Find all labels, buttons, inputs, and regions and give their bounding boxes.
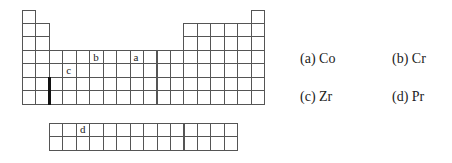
- f-block-cell: [157, 123, 171, 137]
- table-cell: [103, 77, 117, 91]
- f-block-cell: [49, 136, 63, 150]
- table-cell: [224, 90, 238, 104]
- table-cell: [76, 90, 90, 104]
- f-block-cell: [62, 123, 76, 137]
- table-cell: [130, 77, 144, 91]
- table-cell: [170, 77, 184, 91]
- table-cell: [157, 63, 171, 77]
- table-cell: [76, 63, 90, 77]
- f-block-cell: [62, 136, 76, 150]
- table-cell: [49, 90, 63, 104]
- f-block-cell: [184, 123, 198, 137]
- table-cell: [224, 77, 238, 91]
- table-cell: [62, 50, 76, 64]
- table-cell: [251, 23, 265, 37]
- cell-marker-a: a: [134, 52, 139, 63]
- cell-marker-c: c: [66, 65, 71, 76]
- table-cell: [197, 23, 211, 37]
- table-cell: [22, 23, 36, 37]
- table-cell: [49, 63, 63, 77]
- table-cell: [237, 23, 251, 37]
- table-cell: [89, 90, 103, 104]
- f-block-cell: [116, 136, 130, 150]
- table-cell: [197, 63, 211, 77]
- table-cell: [116, 90, 130, 104]
- f-block-cell: [130, 136, 144, 150]
- f-block-cell: [103, 136, 117, 150]
- table-cell: [62, 77, 76, 91]
- table-cell: [35, 23, 49, 37]
- table-cell: [170, 90, 184, 104]
- table-cell: [22, 90, 36, 104]
- table-cell: [49, 77, 63, 91]
- f-block-cell: [130, 123, 144, 137]
- table-cell: [170, 63, 184, 77]
- table-cell: [210, 90, 224, 104]
- table-cell: [183, 50, 197, 64]
- table-cell: [22, 50, 36, 64]
- table-cell: [22, 10, 36, 24]
- f-block-cell: [197, 136, 211, 150]
- table-cell: [143, 63, 157, 77]
- option-d: (d) Pr: [392, 89, 424, 105]
- table-cell: [35, 50, 49, 64]
- table-cell: [237, 63, 251, 77]
- table-cell: [224, 23, 238, 37]
- option-b: (b) Cr: [392, 51, 426, 67]
- f-block-cell: [210, 136, 224, 150]
- table-cell: [224, 63, 238, 77]
- table-cell: [22, 63, 36, 77]
- table-cell: [251, 63, 265, 77]
- table-cell: [251, 77, 265, 91]
- table-cell: [251, 10, 265, 24]
- table-cell: [22, 77, 36, 91]
- table-cell: [76, 50, 90, 64]
- table-cell: [237, 50, 251, 64]
- table-cell: [197, 90, 211, 104]
- f-block-cell: [184, 136, 198, 150]
- table-cell: [130, 63, 144, 77]
- table-cell: [197, 77, 211, 91]
- table-cell: [116, 63, 130, 77]
- cell-marker-b: b: [93, 52, 99, 63]
- option-a: (a) Co: [300, 51, 335, 67]
- table-cell: [170, 50, 184, 64]
- f-block-cell: [143, 123, 157, 137]
- f-block-cell: [49, 123, 63, 137]
- table-cell: [49, 50, 63, 64]
- option-c: (c) Zr: [300, 89, 332, 105]
- table-cell: [62, 90, 76, 104]
- f-block-cell: [143, 136, 157, 150]
- table-cell: [237, 90, 251, 104]
- table-cell: [237, 36, 251, 50]
- f-block-cell: [210, 123, 224, 137]
- table-cell: [197, 50, 211, 64]
- table-cell: [197, 36, 211, 50]
- table-cell: [237, 77, 251, 91]
- table-cell: [183, 63, 197, 77]
- table-cell: [89, 63, 103, 77]
- thick-divider: [48, 77, 51, 105]
- table-cell: [224, 50, 238, 64]
- table-cell: [76, 77, 90, 91]
- table-cell: [143, 50, 157, 64]
- table-cell: [210, 63, 224, 77]
- table-cell: [143, 90, 157, 104]
- table-cell: [103, 90, 117, 104]
- cell-marker-d: d: [80, 124, 86, 135]
- table-cell: [157, 90, 171, 104]
- f-block-cell: [116, 123, 130, 137]
- table-cell: [183, 90, 197, 104]
- table-cell: [210, 77, 224, 91]
- table-cell: [183, 23, 197, 37]
- table-cell: [210, 36, 224, 50]
- f-block-cell: [157, 136, 171, 150]
- f-block-cell: [170, 136, 184, 150]
- f-block-cell: [224, 123, 238, 137]
- table-cell: [103, 63, 117, 77]
- table-cell: [143, 77, 157, 91]
- table-cell: [157, 77, 171, 91]
- table-cell: [251, 90, 265, 104]
- f-block-cell: [103, 123, 117, 137]
- table-cell: [35, 36, 49, 50]
